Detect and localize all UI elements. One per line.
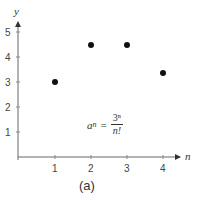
y-tick-label: 3 [5, 77, 11, 88]
chart-canvas: 1 2 3 4 1 2 3 4 5 y n [0, 0, 197, 200]
figure-caption: (a) [79, 178, 95, 193]
x-tick-label: 2 [88, 163, 94, 174]
data-points [52, 42, 166, 85]
x-tick-label: 1 [52, 163, 58, 174]
y-tick-label: 2 [5, 102, 11, 113]
formula-denominator: n! [113, 125, 121, 137]
formula-fraction: 3ⁿ n! [111, 112, 123, 137]
y-axis-label: y [13, 5, 19, 17]
x-tick-label: 4 [160, 163, 166, 174]
formula-numerator: 3ⁿ [111, 112, 123, 125]
formula-annotation: an = 3ⁿ n! [87, 112, 123, 137]
y-tick-label: 4 [5, 52, 11, 63]
y-tick-label: 5 [5, 27, 11, 38]
formula-subscript: n [93, 120, 97, 129]
x-tick-label: 3 [124, 163, 130, 174]
formula-equals: = [101, 119, 107, 131]
x-axis-label: n [185, 150, 191, 162]
y-tick-label: 1 [5, 127, 11, 138]
